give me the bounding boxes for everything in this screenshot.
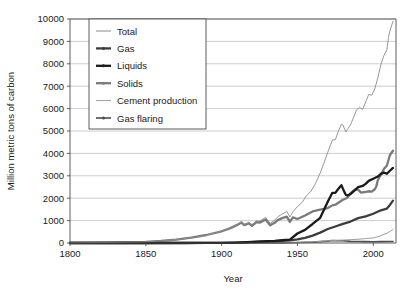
legend-marker-dot [102,82,105,85]
legend-marker-dot [102,64,105,67]
y-tick-label: 0 [59,237,64,248]
legend-label-total: Total [117,26,137,37]
y-tick-label: 9000 [43,36,64,47]
carbon-emissions-line-chart: 0100020003000400050006000700080009000100… [0,0,415,293]
y-tick-label: 7000 [43,81,64,92]
legend-label-gas: Gas [117,43,135,54]
x-tick-label: 2000 [363,248,384,259]
legend-label-liquids: Liquids [117,60,147,71]
x-tick-label: 1850 [135,248,156,259]
y-tick-label: 4000 [43,148,64,159]
chart-figure: 0100020003000400050006000700080009000100… [0,0,415,293]
y-axis-title: Million metric tons of carbon [5,72,16,190]
y-tick-label: 2000 [43,193,64,204]
x-tick-label: 1800 [59,248,80,259]
y-tick-label: 8000 [43,58,64,69]
y-tick-label: 6000 [43,103,64,114]
y-tick-label: 5000 [43,125,64,136]
legend-marker-dot [102,47,105,50]
y-tick-label: 1000 [43,215,64,226]
legend-label-cement-production: Cement production [117,95,197,106]
x-tick-label: 1900 [211,248,232,259]
y-tick-label: 10000 [38,13,64,24]
legend-label-gas-flaring: Gas flaring [117,113,163,124]
x-axis-title: Year [223,273,242,284]
chart-legend: TotalGasLiquidsSolidsCement productionGa… [89,19,206,129]
y-tick-label: 3000 [43,170,64,181]
legend-marker-dot [102,117,105,120]
legend-label-solids: Solids [117,78,143,89]
x-tick-label: 1950 [287,248,308,259]
